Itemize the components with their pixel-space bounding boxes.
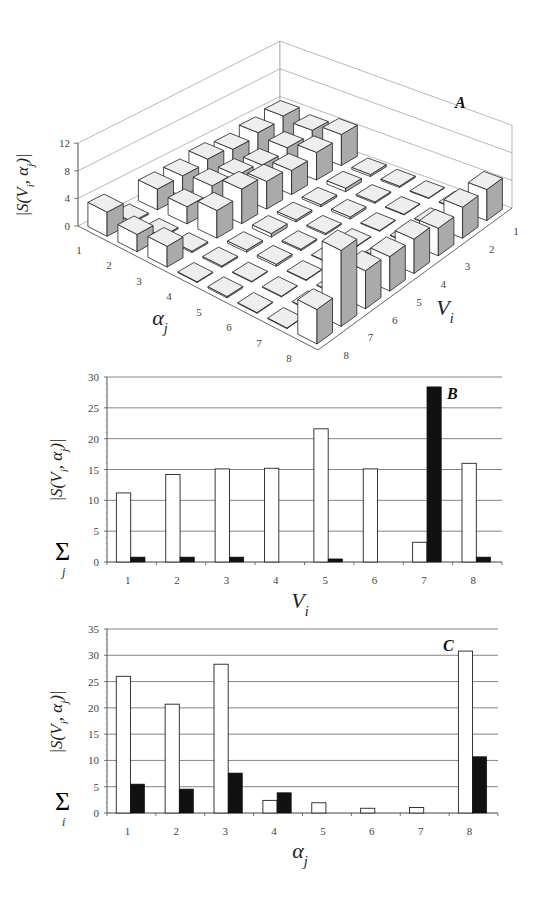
bar-black-1 xyxy=(130,784,144,813)
bar-top xyxy=(282,231,317,250)
bar-black-3 xyxy=(228,773,242,813)
bar3d-alpha5-v7 xyxy=(233,262,268,282)
z-axis-title: |S(Vi, αj)| xyxy=(13,153,36,216)
y-tick-label: 0 xyxy=(94,807,100,819)
bar-top xyxy=(257,245,292,264)
bar-top xyxy=(356,185,391,202)
bar3d-alpha7-v8 xyxy=(268,308,303,329)
bar3d-alpha6-v8 xyxy=(238,293,273,314)
bar3d-alpha5-v8 xyxy=(208,277,243,298)
bar3d-alpha5-v5 xyxy=(282,231,317,251)
alpha-tick-label: 6 xyxy=(226,321,232,333)
x-axis-title: αj xyxy=(292,838,308,869)
y-tick-label: 10 xyxy=(88,754,100,766)
v-tick-label: 5 xyxy=(416,296,422,308)
bar3d-alpha4-v8 xyxy=(178,263,213,283)
bar-black-3 xyxy=(229,557,243,562)
bar-top xyxy=(302,187,337,204)
v-tick-label: 2 xyxy=(489,243,495,255)
bar-black-8 xyxy=(476,557,490,562)
bar-top xyxy=(208,277,243,297)
alpha-tick-label: 7 xyxy=(256,337,262,349)
y-tick-label: 5 xyxy=(94,525,100,537)
x-tick-label: 6 xyxy=(369,825,375,837)
y-tick-label: 20 xyxy=(88,433,100,445)
x-tick-label: 1 xyxy=(125,574,131,586)
y-tick-label: 30 xyxy=(88,649,100,661)
bar-top xyxy=(203,247,238,266)
bar-top xyxy=(361,213,396,231)
bar-white-6 xyxy=(363,469,377,562)
bar3d-alpha5-v3 xyxy=(332,199,367,219)
bar-white-3 xyxy=(215,469,229,562)
x-tick-label: 5 xyxy=(322,574,328,586)
v-tick-label: 6 xyxy=(392,314,398,326)
y-axis-title: |S(Vi, αj)| xyxy=(47,690,70,753)
bar3d-alpha5-v6 xyxy=(257,245,292,266)
bar-white-7 xyxy=(410,807,424,813)
alpha-axis-title: αj xyxy=(152,305,168,336)
sigma-symbol: Σ xyxy=(55,787,70,816)
y-tick-label: 20 xyxy=(88,702,100,714)
y-axis-title-text: |S(Vi, αj)| xyxy=(47,438,70,501)
y-tick-label: 0 xyxy=(94,556,100,568)
bar3d-alpha6-v2 xyxy=(385,197,419,215)
sigma-index: i xyxy=(62,815,65,829)
bar-white-1 xyxy=(116,676,130,813)
bar-top xyxy=(410,181,444,198)
alpha-tick-label: 2 xyxy=(106,259,112,271)
bar3d-alpha4-v4 xyxy=(277,202,312,222)
v-tick-label: 1 xyxy=(513,225,519,237)
v-tick-label: 8 xyxy=(343,349,349,361)
bar3d-alpha6-v6 xyxy=(287,261,322,281)
bar3d-alpha4-v3 xyxy=(302,187,337,206)
chart-c-bar-chart: 0510152025303512345678Cαj|S(Vi, αj)|Σi xyxy=(47,623,498,869)
bar-top xyxy=(332,199,367,217)
y-tick-label: 15 xyxy=(88,464,100,476)
bar3d-alpha4-v5 xyxy=(252,216,287,238)
bar3d-alpha5-v2 xyxy=(356,185,391,204)
z-tick-label: 0 xyxy=(65,220,71,232)
bar-top xyxy=(262,277,297,297)
x-axis-title: Vi xyxy=(291,588,308,619)
bar-white-3 xyxy=(214,664,228,813)
alpha-tick-label: 8 xyxy=(286,352,292,364)
bar-white-2 xyxy=(166,474,180,562)
chart-a-3d-bars: 048121234567812345678|S(Vi, αj)|αjViA xyxy=(13,41,519,364)
bar-white-8 xyxy=(462,463,476,562)
bar-top xyxy=(228,232,263,250)
bar3d-alpha4-v7 xyxy=(203,247,238,267)
sigma-symbol: Σ xyxy=(55,537,70,566)
bar-white-1 xyxy=(116,493,130,562)
v-tick-label: 4 xyxy=(440,278,446,290)
bar-black-1 xyxy=(131,557,145,562)
v-tick-label: 7 xyxy=(368,331,374,343)
y-axis-title: |S(Vi, αj)| xyxy=(47,438,70,501)
panel-label: A xyxy=(454,94,466,111)
bar-white-4 xyxy=(263,800,277,813)
v-axis-title: Vi xyxy=(436,295,453,326)
panel-label: C xyxy=(443,637,454,654)
bar3d-alpha6-v1 xyxy=(410,181,444,199)
x-tick-label: 2 xyxy=(174,574,180,586)
bar-top xyxy=(287,261,322,280)
bar-black-2 xyxy=(179,789,193,813)
bar3d-alpha3-v8 xyxy=(148,228,183,268)
y-tick-label: 30 xyxy=(88,371,100,383)
x-tick-label: 7 xyxy=(421,574,427,586)
bar3d-alpha3-v6 xyxy=(198,192,233,238)
bar-black-2 xyxy=(180,557,194,562)
panel-label: B xyxy=(446,385,458,402)
bar-top xyxy=(277,202,312,220)
x-tick-label: 1 xyxy=(125,825,131,837)
v-tick-label: 3 xyxy=(465,260,471,272)
bar-white-6 xyxy=(361,808,375,813)
y-tick-label: 5 xyxy=(94,781,100,793)
bar3d-alpha4-v2 xyxy=(327,171,362,191)
x-tick-label: 2 xyxy=(174,825,180,837)
bar3d-alpha6-v7 xyxy=(262,277,297,297)
y-axis-title-text: |S(Vi, αj)| xyxy=(47,690,70,753)
alpha-tick-label: 5 xyxy=(196,306,202,318)
chart-b-bar-chart: 05101520253012345678BVi|S(Vi, αj)|Σj xyxy=(47,371,502,619)
sigma-index: j xyxy=(60,565,66,579)
